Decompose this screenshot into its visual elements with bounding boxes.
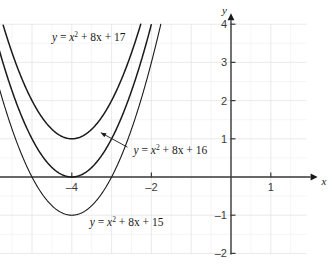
coordinate-plane: –6–4–21 4321–1–2 x y y = x2 + 8x + 17y =… [0,0,332,265]
label-equals: = [95,216,107,228]
y-tick-label: 3 [221,56,227,68]
equation-label-3: y = x2 + 8x + 15 [89,215,164,229]
x-tick-label: –2 [145,181,157,193]
y-tick-label: –1 [215,209,227,221]
x-axis-label: x [321,175,327,187]
y-tick-label: 4 [221,18,227,30]
y-tick-label: 2 [221,95,227,107]
label-equals: = [57,31,69,43]
label-rest: + 8x + 15 [116,216,164,228]
label-rest: + 8x + 16 [160,144,208,156]
y-tick-label: 1 [221,133,227,145]
equation-label-1: y = x2 + 8x + 17 [51,30,126,44]
label-equals: = [139,144,151,156]
figure-background [0,0,332,265]
x-tick-label: 1 [268,181,274,193]
y-tick-label: –2 [215,247,227,259]
equation-label-2: y = x2 + 8x + 16 [132,143,207,157]
label-rest: + 8x + 17 [78,31,126,43]
graph-figure: –6–4–21 4321–1–2 x y y = x2 + 8x + 17y =… [0,0,332,265]
y-axis-label: y [221,4,227,16]
x-tick-label: –4 [66,181,78,193]
